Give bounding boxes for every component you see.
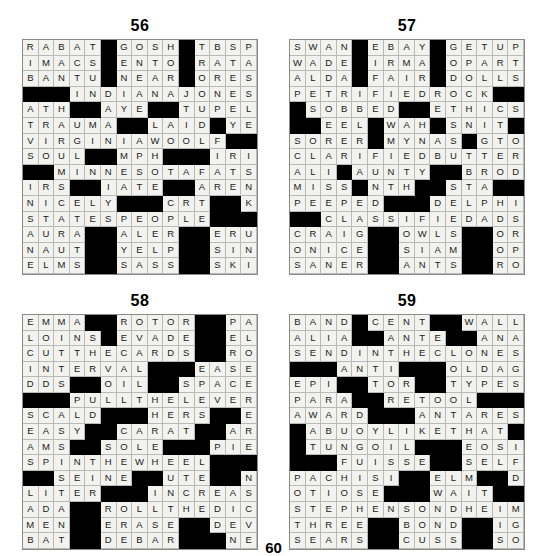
grid-cell-letter: O	[39, 331, 55, 347]
grid-cell-letter: L	[132, 227, 148, 243]
grid-cell-letter: A	[179, 165, 195, 181]
grid-cell-letter: L	[117, 393, 133, 409]
grid-cell-letter: I	[462, 486, 478, 502]
grid-cell-letter: C	[226, 377, 242, 393]
grid-cell-blank	[39, 471, 55, 487]
grid-cell-letter: S	[23, 455, 39, 471]
grid-cell-letter: A	[321, 40, 337, 56]
grid-cell-letter: O	[241, 346, 257, 362]
grid-cell-blank	[101, 258, 117, 274]
grid-cell-letter: E	[290, 377, 306, 393]
grid-cell-letter: I	[54, 455, 70, 471]
grid-cell-blank	[179, 71, 195, 87]
grid-cell-letter: T	[384, 180, 400, 196]
grid-cell-letter: S	[54, 424, 70, 440]
grid-cell-blank	[101, 71, 117, 87]
grid-cell-letter: T	[399, 165, 415, 181]
grid-cell-letter: B	[23, 71, 39, 87]
grid-cell-blank	[290, 212, 306, 228]
grid-cell-letter: F	[508, 455, 524, 471]
grid-cell-letter: B	[290, 315, 306, 331]
grid-cell-letter: T	[70, 212, 86, 228]
grid-cell-letter: O	[132, 40, 148, 56]
grid-cell-letter: N	[477, 346, 493, 362]
grid-cell-letter: E	[241, 408, 257, 424]
grid-cell-blank	[85, 518, 101, 534]
grid-cell-letter: L	[241, 331, 257, 347]
grid-cell-letter: N	[384, 165, 400, 181]
grid-cell-blank	[337, 165, 353, 181]
grid-cell-letter: R	[384, 393, 400, 409]
grid-cell-letter: A	[54, 408, 70, 424]
grid-cell-letter: L	[462, 196, 478, 212]
grid-cell-letter: A	[117, 227, 133, 243]
grid-cell-letter: N	[163, 486, 179, 502]
grid-cell-blank	[290, 102, 306, 118]
grid-cell-letter: N	[337, 440, 353, 456]
grid-cell-letter: O	[132, 315, 148, 331]
grid-cell-letter: O	[306, 134, 322, 150]
grid-cell-letter: T	[493, 424, 509, 440]
answer-grid-59[interactable]: BANDCENTWALLALIAANTEANASENDINTHECLONESAN…	[289, 314, 525, 550]
grid-cell-blank	[368, 518, 384, 534]
grid-cell-blank	[85, 315, 101, 331]
grid-cell-letter: P	[210, 440, 226, 456]
grid-cell-letter: R	[337, 87, 353, 103]
grid-cell-letter: A	[306, 56, 322, 72]
grid-cell-letter: R	[23, 40, 39, 56]
grid-cell-letter: H	[493, 196, 509, 212]
grid-cell-letter: E	[430, 102, 446, 118]
grid-cell-letter: I	[241, 149, 257, 165]
grid-cell-letter: R	[148, 346, 164, 362]
grid-cell-letter: F	[337, 455, 353, 471]
grid-cell-letter: R	[508, 149, 524, 165]
grid-cell-letter: C	[163, 196, 179, 212]
grid-cell-letter: I	[321, 377, 337, 393]
answer-grid-58[interactable]: EMMAROTORPALOINSEVADEELCUTTHECARDSROINTE…	[22, 314, 258, 550]
grid-cell-letter: V	[101, 362, 117, 378]
grid-cell-letter: E	[195, 212, 211, 228]
grid-cell-blank	[368, 408, 384, 424]
grid-cell-letter: A	[337, 393, 353, 409]
grid-cell-letter: I	[368, 455, 384, 471]
grid-cell-letter: W	[430, 486, 446, 502]
answer-grid-56[interactable]: RABATGOSHTBSPIMACSENTORATABANTUNEARORESI…	[22, 39, 258, 275]
grid-cell-letter: P	[290, 196, 306, 212]
grid-cell-blank	[430, 455, 446, 471]
grid-cell-letter: L	[195, 455, 211, 471]
grid-cell-blank	[85, 102, 101, 118]
grid-cell-letter: L	[399, 440, 415, 456]
grid-cell-letter: A	[415, 56, 431, 72]
grid-cell-letter: N	[241, 180, 257, 196]
grid-cell-letter: B	[430, 149, 446, 165]
grid-cell-blank	[54, 87, 70, 103]
grid-cell-blank	[430, 56, 446, 72]
grid-cell-letter: N	[54, 71, 70, 87]
grid-cell-letter: D	[210, 518, 226, 534]
grid-cell-letter: S	[384, 455, 400, 471]
grid-cell-letter: A	[290, 331, 306, 347]
grid-cell-letter: R	[321, 393, 337, 409]
grid-cell-blank	[384, 518, 400, 534]
grid-cell-letter: T	[226, 56, 242, 72]
grid-cell-letter: T	[179, 471, 195, 487]
grid-cell-blank	[101, 486, 117, 502]
grid-cell-letter: O	[493, 165, 509, 181]
grid-cell-letter: S	[54, 377, 70, 393]
answer-grid-57[interactable]: SWANEBAYGETUPWADEIRMAOPARTALDAFAIRDOLLSP…	[289, 39, 525, 275]
grid-cell-blank	[446, 455, 462, 471]
grid-cell-letter: H	[352, 502, 368, 518]
grid-cell-letter: B	[352, 102, 368, 118]
grid-cell-letter: T	[446, 408, 462, 424]
grid-cell-letter: E	[132, 212, 148, 228]
grid-cell-letter: I	[415, 243, 431, 259]
grid-cell-letter: V	[23, 134, 39, 150]
grid-cell-blank	[132, 471, 148, 487]
puzzle-row-top: 56 RABATGOSHTBSPIMACSENTORATABANTUNEAROR…	[22, 18, 525, 275]
grid-cell-letter: H	[399, 180, 415, 196]
grid-cell-letter: U	[241, 227, 257, 243]
grid-cell-letter: O	[117, 502, 133, 518]
grid-cell-blank	[39, 165, 55, 181]
grid-cell-blank	[290, 455, 306, 471]
grid-cell-letter: S	[226, 40, 242, 56]
